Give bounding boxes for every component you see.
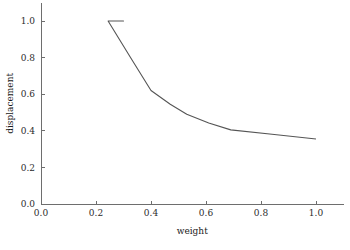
x-tick-label: 0.2 — [89, 208, 103, 218]
y-tick-label: 0.6 — [21, 89, 36, 99]
x-tick-label: 0.4 — [144, 208, 159, 218]
y-axis-tick-labels: 0.00.20.40.60.81.0 — [21, 16, 36, 209]
x-axis-tick-labels: 0.00.20.40.60.81.0 — [34, 208, 324, 218]
x-tick-label: 1.0 — [309, 208, 324, 218]
x-axis-ticks — [41, 201, 316, 205]
data-series-group — [108, 21, 316, 139]
y-tick-label: 0.2 — [21, 163, 35, 173]
x-tick-label: 0.8 — [254, 208, 269, 218]
series-line-displacement — [108, 21, 316, 139]
y-tick-label: 1.0 — [21, 16, 36, 26]
line-chart: 0.00.20.40.60.81.0 0.00.20.40.60.81.0 we… — [0, 0, 350, 250]
y-tick-label: 0.4 — [21, 126, 36, 136]
chart-container: 0.00.20.40.60.81.0 0.00.20.40.60.81.0 we… — [0, 0, 350, 250]
y-tick-label: 0.8 — [21, 53, 36, 63]
x-tick-label: 0.6 — [199, 208, 214, 218]
y-tick-label: 0.0 — [21, 199, 36, 209]
y-axis-title: displacement — [5, 73, 15, 134]
x-tick-label: 0.0 — [34, 208, 49, 218]
x-axis-title: weight — [177, 226, 208, 236]
y-axis-ticks — [41, 21, 45, 204]
axis-spines — [41, 3, 344, 204]
